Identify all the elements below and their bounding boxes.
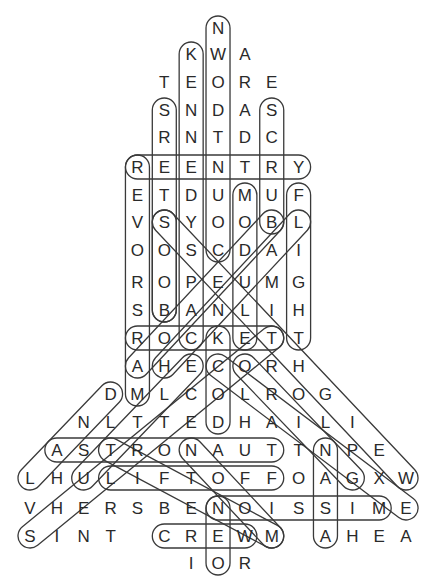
grid-letter[interactable]: N — [78, 413, 90, 432]
grid-letter[interactable]: N — [185, 101, 197, 120]
grid-letter[interactable]: A — [132, 357, 144, 376]
grid-letter[interactable]: S — [185, 241, 196, 260]
grid-letter[interactable]: N — [212, 301, 224, 320]
grid-letter[interactable]: O — [158, 329, 171, 348]
grid-letter[interactable]: C — [266, 128, 278, 147]
grid-letter[interactable]: G — [292, 273, 305, 292]
grid-letter[interactable]: F — [293, 186, 303, 205]
grid-letter[interactable]: D — [239, 241, 251, 260]
grid-letter[interactable]: A — [400, 527, 412, 546]
grid-letter[interactable]: H — [346, 527, 358, 546]
grid-letter[interactable]: R — [185, 527, 197, 546]
grid-letter[interactable]: A — [266, 241, 278, 260]
grid-letter[interactable]: E — [159, 158, 170, 177]
grid-letter[interactable]: I — [350, 413, 355, 432]
grid-letter[interactable]: B — [266, 213, 277, 232]
grid-letter[interactable]: N — [185, 441, 197, 460]
grid-letter[interactable]: O — [292, 469, 305, 488]
grid-letter[interactable]: R — [104, 499, 116, 518]
grid-letter[interactable]: F — [159, 469, 169, 488]
grid-letter[interactable]: E — [374, 527, 385, 546]
grid-letter[interactable]: E — [239, 329, 250, 348]
grid-letter[interactable]: L — [106, 469, 115, 488]
grid-letter[interactable]: C — [158, 527, 170, 546]
grid-letter[interactable]: L — [240, 385, 249, 404]
grid-letter[interactable]: M — [265, 273, 279, 292]
grid-letter[interactable]: M — [372, 499, 386, 518]
grid-letter[interactable]: S — [132, 499, 143, 518]
grid-letter[interactable]: I — [269, 499, 274, 518]
grid-letter[interactable]: V — [24, 499, 36, 518]
grid-letter[interactable]: R — [266, 158, 278, 177]
grid-letter[interactable]: G — [319, 385, 332, 404]
grid-letter[interactable]: T — [132, 413, 142, 432]
grid-letter[interactable]: I — [296, 413, 301, 432]
grid-letter[interactable]: A — [51, 441, 63, 460]
grid-letter[interactable]: L — [160, 385, 169, 404]
grid-letter[interactable]: T — [267, 441, 277, 460]
grid-letter[interactable]: E — [185, 499, 196, 518]
grid-letter[interactable]: D — [239, 128, 251, 147]
grid-letter[interactable]: O — [211, 554, 224, 573]
grid-letter[interactable]: A — [239, 101, 251, 120]
grid-letter[interactable]: P — [347, 441, 358, 460]
grid-letter[interactable]: A — [212, 441, 224, 460]
grid-letter[interactable]: S — [266, 101, 277, 120]
grid-letter[interactable]: M — [238, 186, 252, 205]
grid-letter[interactable]: H — [158, 357, 170, 376]
grid-letter[interactable]: T — [293, 329, 303, 348]
grid-letter[interactable]: S — [159, 213, 170, 232]
grid-letter[interactable]: O — [158, 273, 171, 292]
grid-letter[interactable]: L — [321, 413, 330, 432]
grid-letter[interactable]: I — [350, 499, 355, 518]
grid-letter[interactable]: T — [186, 469, 196, 488]
grid-letter[interactable]: H — [51, 469, 63, 488]
grid-letter[interactable]: R — [266, 357, 278, 376]
grid-letter[interactable]: E — [132, 186, 143, 205]
grid-letter[interactable]: H — [292, 301, 304, 320]
grid-letter[interactable]: V — [132, 213, 144, 232]
grid-letter[interactable]: E — [212, 273, 223, 292]
grid-letter[interactable]: A — [185, 301, 197, 320]
grid-letter[interactable]: H — [239, 413, 251, 432]
grid-letter[interactable]: S — [159, 101, 170, 120]
grid-letter[interactable]: R — [266, 385, 278, 404]
grid-letter[interactable]: C — [212, 357, 224, 376]
grid-letter[interactable]: T — [105, 527, 115, 546]
grid-letter[interactable]: E — [400, 499, 411, 518]
grid-letter[interactable]: O — [211, 385, 224, 404]
grid-letter[interactable]: K — [212, 329, 224, 348]
grid-letter[interactable]: S — [24, 527, 35, 546]
grid-letter[interactable]: U — [239, 441, 251, 460]
grid-letter[interactable]: T — [240, 158, 250, 177]
grid-letter[interactable]: C — [185, 329, 197, 348]
grid-letter[interactable]: E — [212, 527, 223, 546]
grid-letter[interactable]: E — [185, 357, 196, 376]
grid-letter[interactable]: W — [237, 527, 253, 546]
grid-letter[interactable]: S — [132, 301, 143, 320]
grid-letter[interactable]: O — [158, 441, 171, 460]
grid-letter[interactable]: W — [398, 469, 414, 488]
grid-letter[interactable]: T — [105, 441, 115, 460]
grid-letter[interactable]: T — [267, 329, 277, 348]
grid-letter[interactable]: W — [210, 45, 226, 64]
grid-letter[interactable]: C — [185, 385, 197, 404]
grid-letter[interactable]: Y — [185, 213, 196, 232]
grid-letter[interactable]: S — [320, 499, 331, 518]
grid-letter[interactable]: M — [265, 527, 279, 546]
grid-letter[interactable]: N — [78, 527, 90, 546]
grid-letter[interactable]: R — [131, 441, 143, 460]
grid-letter[interactable]: O — [131, 241, 144, 260]
grid-letter[interactable]: A — [320, 469, 332, 488]
grid-letter[interactable]: R — [131, 158, 143, 177]
grid-letter[interactable]: E — [185, 158, 196, 177]
grid-letter[interactable]: Y — [293, 158, 304, 177]
grid-letter[interactable]: D — [185, 186, 197, 205]
grid-letter[interactable]: O — [238, 357, 251, 376]
grid-letter[interactable]: U — [212, 186, 224, 205]
grid-letter[interactable]: L — [25, 469, 34, 488]
grid-letter[interactable]: O — [211, 73, 224, 92]
grid-letter[interactable]: N — [212, 499, 224, 518]
grid-letter[interactable]: O — [238, 213, 251, 232]
grid-letter[interactable]: T — [213, 128, 223, 147]
